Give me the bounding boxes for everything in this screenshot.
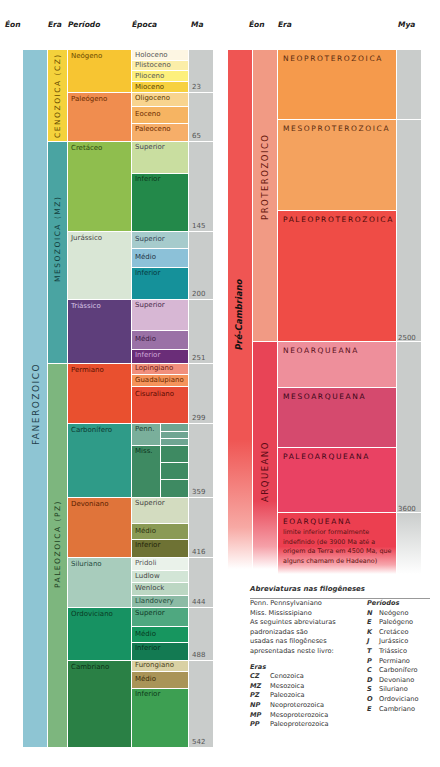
period-label: Carbonífero: [71, 426, 112, 435]
period-label: Triássico: [71, 302, 101, 311]
abbreviations-legend: Abreviaturas nas filogêneses Penn. Penns…: [250, 585, 430, 603]
ma-divider: [189, 423, 213, 424]
epoch-label: Médio: [135, 335, 156, 344]
epoch-devoniano-superior: Superior: [132, 498, 189, 524]
period-permiano: Permiano: [68, 364, 132, 424]
penn-subdivision: [161, 439, 189, 446]
era-label: CENOZOICA (CZ): [53, 53, 62, 138]
epoch-jurassico-superior: Superior: [132, 232, 189, 249]
epoch-ordoviciano-superior: Superior: [132, 608, 189, 627]
epoch-cretaceo-inferior: Inferior: [132, 174, 189, 232]
epoch-mioceno: Mioceno: [132, 82, 189, 93]
ma-divider: [189, 363, 213, 364]
epoch-label: Penn.: [135, 425, 154, 434]
legend-text: Penn. Pennsylvaniano: [250, 599, 362, 609]
legend-period-row: NNeógeno: [367, 609, 432, 619]
period-ordoviciano: Ordoviciano: [68, 608, 132, 661]
ma-value: 416: [192, 548, 205, 556]
epoch-label: Médio: [135, 527, 156, 536]
epoch-devoniano-inferior: Inferior: [132, 540, 189, 558]
epoch-eoceno: Eoceno: [132, 107, 189, 124]
ma-divider: [189, 299, 213, 300]
ma-value: 444: [192, 598, 205, 606]
mya-value: 3600: [398, 505, 416, 513]
ma-value: 145: [192, 222, 205, 230]
epoch-label: Miss.: [135, 447, 153, 456]
era-label: MESOPROTEROZOICA: [283, 124, 390, 133]
ma-value: 542: [192, 738, 205, 746]
legend-period-row: PPermiano: [367, 657, 432, 667]
epoch-label: Plioceno: [135, 72, 164, 81]
period-siluriano: Siluriano: [68, 558, 132, 608]
period-paleogeno: Paleógeno: [68, 93, 132, 142]
miss-subdivision: [161, 480, 189, 498]
legend-period-row: TTriássico: [367, 647, 432, 657]
epoch-lopingiano: Lopingiano: [132, 364, 189, 375]
legend-period-row: SSiluriano: [367, 685, 432, 695]
header-era-right: Era: [278, 20, 292, 29]
epoch-mississipiano: Miss.: [132, 446, 161, 498]
epoch-label: Superior: [135, 499, 165, 508]
epoch-triassico-medio: Médio: [132, 331, 189, 350]
eon-fanerozoico: FANEROZOICO: [23, 50, 48, 748]
legend-intro: Penn. Pennsylvaniano Miss. Mississipiano…: [250, 599, 362, 730]
ma-value: 251: [192, 354, 205, 362]
epoch-cretaceo-superior: Superior: [132, 142, 189, 174]
epoch-label: Plistoceno: [135, 61, 171, 70]
penn-subdivision: [161, 424, 189, 432]
period-cretaceo: Cretáceo: [68, 142, 132, 232]
ma-divider: [189, 607, 213, 608]
eoarqueana-note: limite inferior formalmente indefinido (…: [283, 528, 395, 566]
era-label: PALEOZOICA (PZ): [53, 500, 62, 588]
legend-era-row: PPPaleoproterozoica: [250, 720, 362, 730]
era-neoproterozoica: NEOPROTEROZOICA: [278, 50, 397, 120]
legend-period-row: OOrdoviciano: [367, 695, 432, 705]
ma-value: 299: [192, 414, 205, 422]
epoch-label: Superior: [135, 301, 165, 310]
epoch-plistoceno: Plistoceno: [132, 61, 189, 71]
eon-proterozoico: PROTEROZOICO: [253, 50, 278, 342]
era-eoarqueana: EOARQUEANA limite inferior formalmente i…: [278, 513, 397, 575]
epoch-holoceno: Holoceno: [132, 50, 189, 61]
era-neoarqueana: NEOARQUEANA: [278, 342, 397, 388]
legend-text: apresentadas neste livro:: [250, 647, 362, 657]
legend-period-row: JJurássico: [367, 637, 432, 647]
header-period: Período: [68, 20, 100, 29]
era-label: NEOARQUEANA: [283, 346, 359, 355]
header-epoch: Época: [132, 20, 157, 29]
legend-era-row: NPNeoproterozoica: [250, 701, 362, 711]
epoch-label: Lopingiano: [135, 364, 173, 373]
sub-eon-label: PROTEROZOICO: [260, 133, 270, 220]
legend-title: Abreviaturas nas filogêneses: [250, 585, 430, 599]
legend-era-row: PZPaleozoica: [250, 691, 362, 701]
period-jurassico: Jurássico: [68, 232, 132, 300]
legend-periods-title: Períodos: [367, 599, 432, 609]
era-cenozoica: CENOZOICA (CZ): [48, 50, 68, 142]
legend-period-row: CCarbonífero: [367, 666, 432, 676]
legend-eras-title: Eras: [250, 663, 362, 673]
epoch-label: Inferior: [135, 541, 160, 550]
epoch-pridoli: Pridoli: [132, 558, 189, 571]
epoch-triassico-inferior: Inferior: [132, 350, 189, 364]
period-label: Cambriano: [71, 663, 109, 672]
epoch-oligoceno: Oligoceno: [132, 93, 189, 107]
ma-value: 23: [192, 83, 201, 91]
ma-divider: [189, 231, 213, 232]
legend-periods: Períodos NNeógeno EPaleógeno KCretáceo J…: [367, 599, 432, 714]
ma-column: [189, 50, 213, 748]
era-label: PALEOPROTEROZOICA: [283, 215, 394, 224]
epoch-label: Paleoceno: [135, 125, 171, 134]
epoch-plioceno: Plioceno: [132, 71, 189, 82]
era-mesozoica: MESOZOICA (MZ): [48, 142, 68, 364]
period-label: Ordoviciano: [71, 610, 113, 619]
mya-column: [397, 50, 421, 575]
epoch-ordoviciano-medio: Médio: [132, 627, 189, 643]
epoch-label: Pridoli: [135, 559, 157, 568]
era-paleozoica: PALEOZOICA (PZ): [48, 364, 68, 748]
epoch-label: Inferior: [135, 175, 160, 184]
period-label: Siluriano: [71, 560, 102, 569]
epoch-label: Furongiano: [135, 661, 174, 670]
era-mesoproterozoica-fill: [278, 200, 397, 211]
ma-divider: [189, 497, 213, 498]
header-eon: Éon: [5, 20, 21, 29]
